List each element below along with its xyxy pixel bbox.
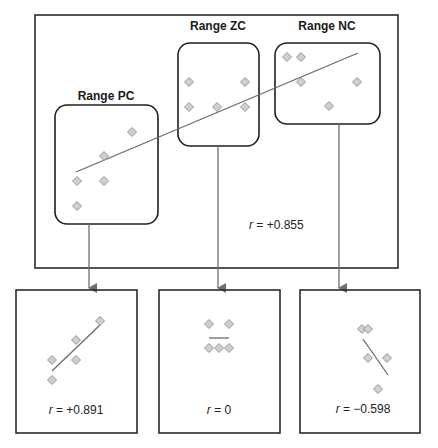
data-point-diamond — [325, 102, 334, 111]
data-point-diamond — [48, 376, 57, 385]
range-pc-label: Range PC — [78, 89, 135, 103]
data-point-diamond — [353, 78, 362, 87]
data-point-diamond — [297, 53, 306, 62]
data-point-diamond — [215, 344, 224, 353]
correlation-range-diagram: Range PC Range ZC Range NC r = +0.855 r … — [0, 0, 438, 448]
data-point-diamond — [283, 53, 292, 62]
data-point-diamond — [213, 103, 222, 112]
data-point-diamond — [225, 320, 234, 329]
data-point-diamond — [72, 356, 81, 365]
data-point-diamond — [96, 317, 105, 326]
range-nc-box — [275, 43, 380, 124]
data-point-diamond — [241, 78, 250, 87]
range-nc-label: Range NC — [298, 19, 356, 33]
subpanel-zc-r-label: r = 0 — [207, 403, 232, 417]
overall-regression-line — [76, 53, 358, 172]
range-zc-label: Range ZC — [190, 19, 246, 33]
data-point-diamond — [100, 177, 109, 186]
data-point-diamond — [128, 128, 137, 137]
data-point-diamond — [241, 103, 250, 112]
range-pc-box — [55, 105, 158, 224]
overall-r-label: r = +0.855 — [249, 218, 304, 232]
subpanel-data-points — [48, 317, 392, 394]
data-point-diamond — [374, 385, 383, 394]
subpanel-nc-r-label: r = −0.598 — [336, 402, 391, 416]
data-point-diamond — [185, 78, 194, 87]
data-point-diamond — [364, 325, 373, 334]
main-data-points — [73, 53, 362, 211]
data-point-diamond — [205, 344, 214, 353]
data-point-diamond — [72, 336, 81, 345]
subpanel-pc-r-label: r = +0.891 — [49, 403, 104, 417]
data-point-diamond — [73, 177, 82, 186]
data-point-diamond — [73, 202, 82, 211]
data-point-diamond — [383, 354, 392, 363]
data-point-diamond — [364, 354, 373, 363]
data-point-diamond — [225, 344, 234, 353]
data-point-diamond — [205, 320, 214, 329]
range-zc-box — [178, 43, 259, 146]
data-point-diamond — [185, 103, 194, 112]
data-point-diamond — [48, 356, 57, 365]
